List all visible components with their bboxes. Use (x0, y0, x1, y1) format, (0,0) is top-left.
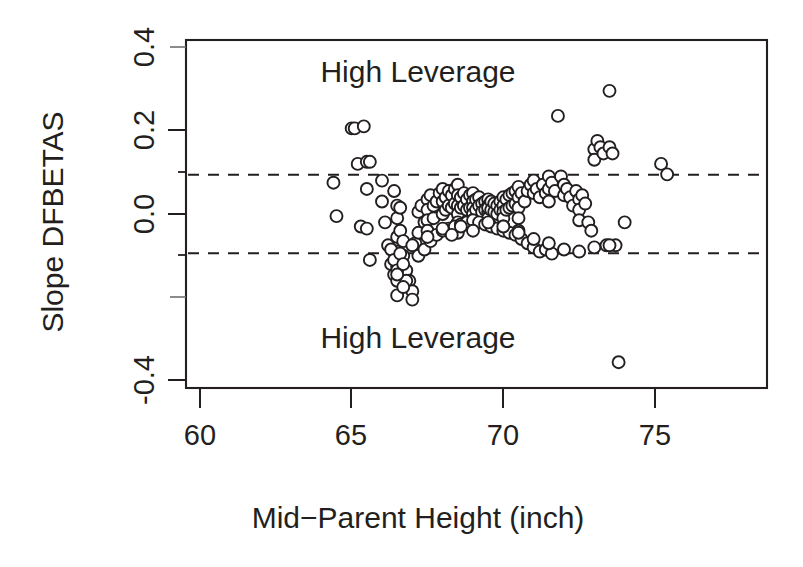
data-point (358, 120, 370, 132)
high-leverage-label-lower: High Leverage (320, 321, 515, 354)
data-point (497, 221, 509, 233)
data-point (331, 210, 343, 222)
x-tick-label-60: 60 (184, 419, 216, 451)
data-point (455, 221, 467, 233)
data-point (607, 147, 619, 159)
data-point (406, 294, 418, 306)
high-leverage-label-upper: High Leverage (320, 55, 515, 88)
data-point (619, 216, 631, 228)
y-tick-label-04: 0.4 (128, 27, 160, 67)
data-point (364, 156, 376, 168)
data-point (552, 110, 564, 122)
data-point (585, 225, 597, 237)
data-point (379, 216, 391, 228)
x-axis-ticks (200, 388, 655, 408)
data-point (376, 175, 388, 187)
data-point (391, 269, 403, 281)
plot-canvas: 0.4 0.2 0.0 -0.4 60 65 70 75 Slope DFBET… (0, 0, 803, 567)
data-point (422, 231, 434, 243)
data-point (467, 225, 479, 237)
y-axis-tick-labels: 0.4 0.2 0.0 -0.4 (128, 27, 160, 405)
data-point (513, 212, 525, 224)
scatter-plot-figure: 0.4 0.2 0.0 -0.4 60 65 70 75 Slope DFBET… (0, 0, 803, 567)
x-axis-tick-labels: 60 65 70 75 (184, 419, 671, 451)
x-tick-label-75: 75 (639, 419, 671, 451)
data-point (661, 168, 673, 180)
x-tick-label-70: 70 (487, 419, 519, 451)
data-point (327, 177, 339, 189)
y-axis-title: Slope DFBETAS (36, 111, 69, 332)
data-point (604, 239, 616, 251)
data-point (376, 195, 388, 207)
x-tick-label-65: 65 (335, 419, 367, 451)
y-tick-label-neg04: -0.4 (128, 355, 160, 405)
data-point (361, 183, 373, 195)
data-point (579, 198, 591, 210)
y-tick-label-00: 0.0 (128, 194, 160, 234)
data-point (543, 237, 555, 249)
y-axis-ticks (168, 47, 186, 380)
data-point (394, 202, 406, 214)
data-point (513, 227, 525, 239)
data-point (558, 243, 570, 255)
data-point (613, 356, 625, 368)
data-point (361, 223, 373, 235)
data-point (528, 233, 540, 245)
y-tick-label-02: 0.2 (128, 110, 160, 150)
data-point (388, 185, 400, 197)
data-point (397, 281, 409, 293)
data-point (482, 216, 494, 228)
x-axis-title: Mid−Parent Height (inch) (252, 501, 585, 534)
data-point (364, 254, 376, 266)
data-point (588, 241, 600, 253)
data-point (573, 246, 585, 258)
data-point (604, 85, 616, 97)
